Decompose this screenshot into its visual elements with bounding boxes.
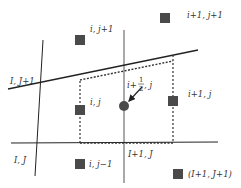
grid-line-upper-slanted — [8, 50, 198, 89]
label-ip1-jp1: i+1, j+1 — [187, 10, 223, 20]
stencil-diagram: i, j+1 i+1, j+1 I, J+1 i, j i+1, j i+ 1 … — [0, 0, 241, 188]
node-i-jm1 — [75, 159, 85, 169]
grid-line-left-vertical — [35, 40, 43, 176]
label-Ip1-Jp1: (I+1, J+1) — [188, 169, 232, 179]
node-i-j — [75, 105, 85, 115]
label-i-jp1: i, j+1 — [90, 24, 113, 34]
node-ihalf-j — [119, 101, 129, 111]
label-Ip1-J: I+1, J — [127, 149, 153, 159]
label-ip1-j: i+1, j — [188, 89, 212, 99]
label-ihalf-prefix: i+ — [127, 80, 137, 90]
node-ip1-jp1 — [160, 13, 170, 23]
label-I-J: I, J — [13, 155, 27, 165]
label-i-jm1: i, j−1 — [89, 159, 112, 169]
node-Ip1-Jp1 — [173, 169, 183, 179]
control-volume-top-edge — [80, 61, 173, 80]
label-ihalf-num: 1 — [139, 76, 143, 84]
label-I-Jp1: I, J+1 — [9, 76, 35, 86]
node-i-jp1 — [75, 35, 85, 45]
grid-line-lower-horizontal — [11, 142, 218, 143]
node-ip1-j — [168, 96, 178, 106]
label-i-j: i, j — [90, 97, 101, 107]
label-ihalf-suffix: , j — [144, 80, 152, 90]
label-ihalf-den: 2 — [139, 85, 143, 93]
